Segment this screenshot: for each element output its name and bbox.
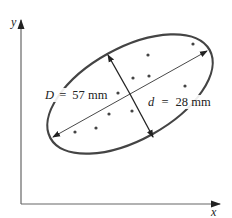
y-axis-label: y (10, 15, 17, 29)
ellipse-diagram: y x D = 57 mm d = 28 mm (0, 0, 232, 218)
axes: y x (10, 15, 220, 218)
data-point (146, 53, 149, 56)
data-point (191, 42, 194, 45)
major-axis-var: D (44, 88, 54, 102)
minor-axis-arrow (108, 55, 130, 94)
data-point (147, 74, 150, 77)
data-point (116, 91, 119, 94)
data-point (107, 112, 110, 115)
major-axis-label: D = 57 mm (44, 88, 108, 102)
data-point (183, 84, 186, 87)
data-point (130, 109, 133, 112)
minor-axis-value: 28 mm (176, 95, 211, 109)
data-point (131, 76, 134, 79)
data-point (94, 126, 97, 129)
minor-axis-var: d (148, 95, 155, 109)
major-axis-eq: = (59, 88, 66, 102)
major-axis-value: 57 mm (72, 88, 107, 102)
x-axis-label: x (210, 205, 217, 218)
major-axis-arrow (130, 51, 207, 94)
data-point (73, 130, 76, 133)
minor-axis-eq: = (161, 95, 168, 109)
